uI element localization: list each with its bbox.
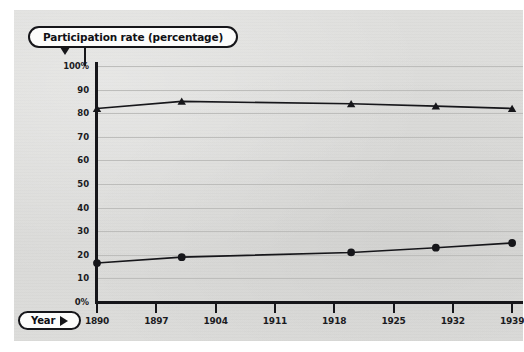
y-axis-title-pill: Participation rate (percentage) <box>28 26 238 48</box>
data-point-marker-circle <box>432 244 440 252</box>
series-line-lower-series <box>97 243 512 263</box>
triangle-right-icon <box>60 316 68 326</box>
series-line-upper-series <box>97 101 512 108</box>
data-point-marker-circle <box>178 253 186 261</box>
data-point-marker-circle <box>93 259 101 267</box>
x-axis-title-label: Year <box>31 315 55 326</box>
x-axis-title-pill: Year <box>18 311 81 330</box>
data-point-marker-circle <box>508 239 516 247</box>
data-point-marker-circle <box>347 249 355 257</box>
y-axis-title-label: Participation rate (percentage) <box>43 31 223 43</box>
